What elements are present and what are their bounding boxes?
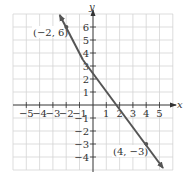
x-tick-labels: −5 −4 −3 −2 −1 1 2 3 4 5	[19, 108, 163, 119]
y-tick-label: −1	[74, 113, 89, 124]
x-axis-label: x	[177, 99, 183, 110]
y-axis-label: y	[88, 1, 95, 12]
y-tick-label: 2	[83, 74, 89, 85]
y-tick-label: −4	[74, 152, 89, 163]
point-label-2: (4, −3)	[113, 146, 148, 157]
x-tick-label: 3	[130, 108, 136, 119]
y-tick-label: −3	[74, 139, 89, 150]
y-tick-label: 1	[83, 87, 89, 98]
y-tick-label: 4	[83, 48, 89, 59]
y-tick-label: 6	[83, 22, 89, 33]
coordinate-plane: −5 −4 −3 −2 −1 1 2 3 4 5 6 5 4 3 2 1 −1 …	[0, 0, 190, 179]
y-tick-label: −2	[74, 126, 89, 137]
point-label-1: (−2, 6)	[33, 27, 68, 38]
x-tick-label: 1	[103, 108, 109, 119]
x-tick-label: 4	[143, 108, 149, 119]
x-tick-label: 5	[156, 108, 162, 119]
y-tick-label: 5	[83, 35, 89, 46]
